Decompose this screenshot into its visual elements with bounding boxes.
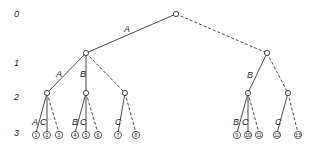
leaf-label: 12 bbox=[274, 132, 280, 138]
edge-label-c: C bbox=[80, 117, 87, 127]
edge-label-b: B bbox=[80, 69, 86, 79]
leaf-label: 11 bbox=[256, 132, 261, 138]
leaf-label: 10 bbox=[245, 132, 251, 138]
edge bbox=[47, 93, 59, 133]
leaf-label: 1 bbox=[35, 132, 38, 138]
leaf-label: 4 bbox=[74, 132, 77, 138]
edge-label-c: C bbox=[40, 117, 47, 127]
node-l2 bbox=[44, 90, 49, 95]
edge-l1r-c bbox=[267, 53, 288, 93]
edge bbox=[288, 93, 298, 133]
root-node bbox=[173, 11, 178, 16]
leaf-label: 7 bbox=[117, 132, 120, 138]
leaf-label: 5 bbox=[85, 132, 88, 138]
edge-l1l-c bbox=[86, 53, 125, 93]
edge-label-b: B bbox=[233, 117, 239, 127]
edge-label-a: A bbox=[55, 69, 62, 79]
edge-label-a: A bbox=[123, 24, 130, 34]
level-label-2: 2 bbox=[13, 92, 19, 102]
edge-root-left bbox=[86, 14, 176, 53]
node-l2 bbox=[245, 90, 250, 95]
edge-label-a: A bbox=[31, 117, 38, 127]
edge bbox=[125, 93, 136, 133]
edge bbox=[248, 93, 259, 133]
node-l2 bbox=[83, 90, 88, 95]
leaf-label: 2 bbox=[46, 132, 49, 138]
edge-label-b: B bbox=[72, 117, 78, 127]
edge bbox=[75, 93, 86, 133]
node-l1-left bbox=[83, 50, 88, 55]
leaf-label: 8 bbox=[135, 132, 138, 138]
node-l2 bbox=[122, 90, 127, 95]
edge bbox=[86, 93, 98, 133]
edge-label-c: C bbox=[275, 117, 282, 127]
edge-label-c: C bbox=[242, 117, 249, 127]
edge-label-c: C bbox=[115, 117, 122, 127]
leaf-label: 3 bbox=[58, 132, 61, 138]
edge bbox=[277, 93, 288, 133]
edge bbox=[237, 93, 248, 133]
level-label-3: 3 bbox=[14, 128, 19, 138]
edge-root-right bbox=[176, 14, 267, 53]
leaf-label: 6 bbox=[97, 132, 100, 138]
level-label-1: 1 bbox=[14, 58, 19, 68]
node-l1-right bbox=[264, 50, 269, 55]
edge bbox=[36, 93, 47, 133]
leaf-label: 13 bbox=[295, 132, 301, 138]
edge-label-b: B bbox=[247, 70, 253, 80]
edge bbox=[118, 93, 125, 133]
leaf-label: 9 bbox=[236, 132, 239, 138]
level-label-0: 0 bbox=[14, 9, 19, 19]
decision-tree-diagram: 0 1 2 3 bbox=[0, 0, 310, 147]
node-l2 bbox=[285, 90, 290, 95]
